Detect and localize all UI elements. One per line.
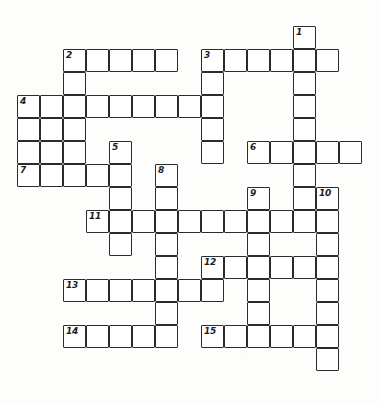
crossword-cell[interactable] — [201, 279, 224, 302]
crossword-cell[interactable] — [201, 210, 224, 233]
crossword-cell[interactable] — [132, 95, 155, 118]
crossword-cell[interactable] — [109, 279, 132, 302]
crossword-cell[interactable] — [293, 49, 316, 72]
crossword-cell[interactable] — [178, 279, 201, 302]
crossword-cell[interactable] — [316, 49, 339, 72]
crossword-cell[interactable] — [339, 141, 362, 164]
crossword-cell[interactable] — [132, 279, 155, 302]
crossword-cell[interactable] — [155, 187, 178, 210]
crossword-cell[interactable] — [155, 95, 178, 118]
clue-number-10: 10 — [319, 188, 331, 199]
crossword-cell[interactable] — [316, 256, 339, 279]
crossword-cell[interactable] — [247, 233, 270, 256]
crossword-cell[interactable] — [293, 118, 316, 141]
crossword-cell[interactable] — [17, 141, 40, 164]
crossword-cell[interactable] — [86, 279, 109, 302]
crossword-cell[interactable] — [247, 49, 270, 72]
crossword-cell[interactable] — [155, 49, 178, 72]
crossword-cell[interactable] — [109, 49, 132, 72]
crossword-cell-numbered-1[interactable]: 1 — [293, 26, 316, 49]
crossword-cell[interactable] — [293, 325, 316, 348]
crossword-cell-numbered-11[interactable]: 11 — [86, 210, 109, 233]
crossword-cell[interactable] — [270, 49, 293, 72]
crossword-cell[interactable] — [63, 141, 86, 164]
crossword-cell-numbered-4[interactable]: 4 — [17, 95, 40, 118]
crossword-cell[interactable] — [132, 325, 155, 348]
crossword-cell[interactable] — [155, 325, 178, 348]
crossword-cell-numbered-5[interactable]: 5 — [109, 141, 132, 164]
crossword-cell-numbered-9[interactable]: 9 — [247, 187, 270, 210]
crossword-cell[interactable] — [293, 72, 316, 95]
crossword-cell-numbered-2[interactable]: 2 — [63, 49, 86, 72]
crossword-cell[interactable] — [86, 95, 109, 118]
crossword-cell[interactable] — [247, 302, 270, 325]
crossword-cell[interactable] — [270, 210, 293, 233]
crossword-cell[interactable] — [109, 187, 132, 210]
crossword-cell[interactable] — [224, 256, 247, 279]
crossword-cell[interactable] — [293, 210, 316, 233]
crossword-cell-numbered-14[interactable]: 14 — [63, 325, 86, 348]
crossword-cell-numbered-7[interactable]: 7 — [17, 164, 40, 187]
crossword-cell[interactable] — [63, 164, 86, 187]
crossword-cell[interactable] — [316, 210, 339, 233]
crossword-cell[interactable] — [40, 118, 63, 141]
crossword-cell[interactable] — [201, 141, 224, 164]
crossword-cell[interactable] — [201, 72, 224, 95]
crossword-cell[interactable] — [17, 118, 40, 141]
crossword-cell[interactable] — [109, 325, 132, 348]
crossword-cell[interactable] — [224, 325, 247, 348]
crossword-cell[interactable] — [293, 187, 316, 210]
crossword-cell[interactable] — [109, 95, 132, 118]
crossword-cell[interactable] — [132, 210, 155, 233]
crossword-cell[interactable] — [293, 164, 316, 187]
crossword-cell[interactable] — [316, 348, 339, 371]
crossword-cell-numbered-10[interactable]: 10 — [316, 187, 339, 210]
crossword-cell[interactable] — [63, 118, 86, 141]
crossword-cell[interactable] — [109, 210, 132, 233]
crossword-cell[interactable] — [155, 302, 178, 325]
crossword-cell-numbered-12[interactable]: 12 — [201, 256, 224, 279]
crossword-cell[interactable] — [132, 49, 155, 72]
crossword-cell[interactable] — [270, 141, 293, 164]
crossword-cell[interactable] — [40, 141, 63, 164]
crossword-cell[interactable] — [155, 256, 178, 279]
crossword-cell[interactable] — [86, 325, 109, 348]
crossword-cell[interactable] — [293, 95, 316, 118]
crossword-cell[interactable] — [247, 256, 270, 279]
crossword-cell[interactable] — [63, 95, 86, 118]
crossword-cell[interactable] — [316, 325, 339, 348]
crossword-cell[interactable] — [224, 210, 247, 233]
crossword-cell[interactable] — [40, 95, 63, 118]
crossword-cell-numbered-6[interactable]: 6 — [247, 141, 270, 164]
crossword-cell[interactable] — [247, 325, 270, 348]
crossword-cell[interactable] — [155, 210, 178, 233]
crossword-cell[interactable] — [155, 279, 178, 302]
crossword-cell[interactable] — [201, 118, 224, 141]
crossword-cell-numbered-15[interactable]: 15 — [201, 325, 224, 348]
crossword-cell[interactable] — [316, 302, 339, 325]
crossword-cell-numbered-13[interactable]: 13 — [63, 279, 86, 302]
crossword-cell[interactable] — [316, 233, 339, 256]
crossword-cell[interactable] — [86, 164, 109, 187]
crossword-cell[interactable] — [224, 49, 247, 72]
crossword-cell[interactable] — [109, 164, 132, 187]
crossword-cell[interactable] — [40, 164, 63, 187]
crossword-cell[interactable] — [201, 95, 224, 118]
crossword-cell[interactable] — [86, 49, 109, 72]
crossword-cell[interactable] — [178, 95, 201, 118]
crossword-cell[interactable] — [316, 279, 339, 302]
crossword-cell[interactable] — [270, 325, 293, 348]
crossword-cell[interactable] — [293, 256, 316, 279]
crossword-cell[interactable] — [247, 210, 270, 233]
crossword-cell-numbered-3[interactable]: 3 — [201, 49, 224, 72]
crossword-cell[interactable] — [155, 233, 178, 256]
crossword-grid[interactable]: 123456789101112131415 — [0, 0, 380, 404]
crossword-cell[interactable] — [109, 233, 132, 256]
crossword-cell[interactable] — [178, 210, 201, 233]
crossword-cell[interactable] — [316, 141, 339, 164]
crossword-cell[interactable] — [270, 256, 293, 279]
crossword-cell[interactable] — [63, 72, 86, 95]
crossword-cell[interactable] — [247, 279, 270, 302]
crossword-cell-numbered-8[interactable]: 8 — [155, 164, 178, 187]
crossword-cell[interactable] — [293, 141, 316, 164]
